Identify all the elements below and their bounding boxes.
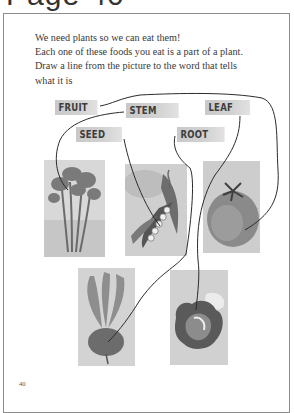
label-leaf[interactable]: LEAF bbox=[205, 100, 250, 115]
celery-icon bbox=[44, 160, 105, 257]
picture-celery[interactable] bbox=[44, 160, 105, 257]
page-title: Page 40 bbox=[6, 0, 125, 12]
picture-beet[interactable] bbox=[78, 268, 135, 366]
label-root[interactable]: ROOT bbox=[177, 127, 225, 142]
instruction-line-2: Each one of these foods you eat is a par… bbox=[35, 45, 265, 59]
tomato-icon bbox=[203, 161, 260, 253]
instructions: We need plants so we can eat them! Each … bbox=[35, 31, 265, 88]
label-stem[interactable]: STEM bbox=[126, 103, 179, 118]
instruction-line-3: Draw a line from the picture to the word… bbox=[35, 59, 265, 73]
page-number: 40 bbox=[19, 380, 26, 387]
label-seed[interactable]: SEED bbox=[76, 127, 122, 142]
lettuce-icon bbox=[170, 270, 228, 365]
label-fruit[interactable]: FRUIT bbox=[55, 100, 98, 115]
picture-pea-pod[interactable] bbox=[125, 164, 187, 256]
beet-icon bbox=[78, 268, 135, 366]
instruction-line-1: We need plants so we can eat them! bbox=[35, 31, 265, 45]
picture-tomato[interactable] bbox=[203, 161, 260, 253]
instruction-line-4: what it is bbox=[35, 74, 265, 88]
picture-lettuce[interactable] bbox=[170, 270, 228, 365]
pea-pod-icon bbox=[125, 164, 187, 256]
